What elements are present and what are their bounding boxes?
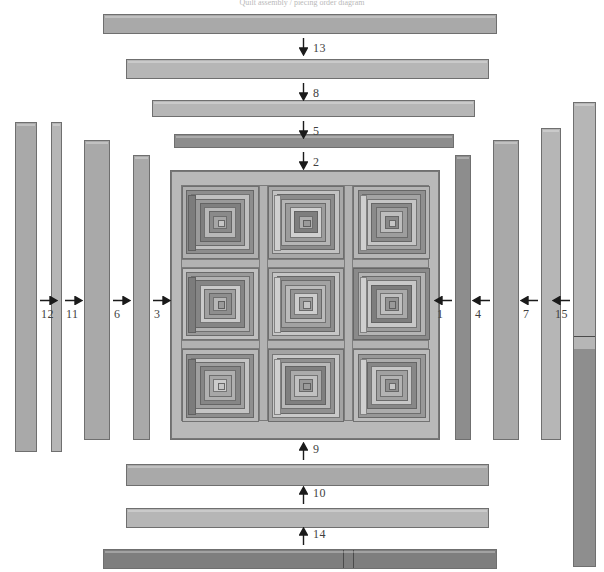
log-cabin-block xyxy=(182,186,259,259)
sashing-vertical xyxy=(259,186,268,420)
log-cabin-accent-log xyxy=(360,195,367,251)
border-strip-9 xyxy=(126,464,489,486)
strip-number-14: 14 xyxy=(313,528,326,540)
log-cabin-centre xyxy=(303,301,310,308)
strip-number-1: 1 xyxy=(437,308,444,320)
arrow-down-8 xyxy=(299,83,308,101)
log-cabin-centre xyxy=(389,220,396,227)
strip-number-10: 10 xyxy=(313,487,326,499)
log-cabin-block xyxy=(353,186,430,259)
log-cabin-block xyxy=(182,349,259,422)
strip-number-15: 15 xyxy=(555,308,568,320)
log-cabin-centre xyxy=(389,383,396,390)
sashing-horizontal xyxy=(182,340,428,349)
border-strip-4 xyxy=(493,140,519,440)
log-cabin-block xyxy=(268,268,345,341)
border-strip-5 xyxy=(152,100,475,117)
strip-number-3: 3 xyxy=(154,308,161,320)
log-cabin-accent-log xyxy=(274,195,281,251)
log-cabin-block xyxy=(353,268,430,341)
arrow-right-3 xyxy=(153,296,171,305)
log-cabin-accent-log xyxy=(360,277,367,333)
arrow-left-15 xyxy=(552,296,570,305)
arrow-down-2 xyxy=(299,152,308,170)
border-strip-13 xyxy=(103,14,497,34)
diagram-canvas: Quilt assembly / piecing order diagram 1… xyxy=(0,0,604,572)
log-cabin-accent-log xyxy=(360,359,367,415)
border-strip-14 xyxy=(103,549,497,569)
strip-number-4: 4 xyxy=(475,308,482,320)
log-cabin-accent-log xyxy=(274,359,281,415)
log-cabin-centre xyxy=(218,220,225,227)
sashing-horizontal xyxy=(182,259,428,268)
border-strip-15 xyxy=(573,102,596,567)
sashing-vertical xyxy=(344,186,353,420)
log-cabin-centre xyxy=(303,383,310,390)
strip-number-7: 7 xyxy=(523,308,530,320)
log-cabin-accent-log xyxy=(274,277,281,333)
border-strip-12 xyxy=(15,122,37,452)
log-cabin-block xyxy=(268,349,345,422)
log-cabin-accent-log xyxy=(188,359,195,415)
arrow-right-12 xyxy=(40,296,58,305)
border-strip-3 xyxy=(133,155,150,440)
arrow-left-7 xyxy=(520,296,538,305)
arrow-up-10 xyxy=(299,486,308,504)
arrow-left-4 xyxy=(472,296,490,305)
seam-line xyxy=(574,336,595,337)
seam-line xyxy=(343,550,344,568)
arrow-down-13 xyxy=(299,38,308,56)
quilt-centre xyxy=(170,170,440,440)
log-cabin-centre xyxy=(389,301,396,308)
log-cabin-centre xyxy=(218,383,225,390)
strip-number-13: 13 xyxy=(313,42,326,54)
border-strip-8 xyxy=(126,59,489,79)
log-cabin-block xyxy=(268,186,345,259)
log-cabin-block xyxy=(353,349,430,422)
strip-number-9: 9 xyxy=(313,443,320,455)
seam-line xyxy=(353,550,354,568)
border-strip-6 xyxy=(84,140,110,440)
border-strip-10 xyxy=(126,508,489,528)
arrow-right-11 xyxy=(65,296,83,305)
strip-15-lower-segment xyxy=(574,349,595,566)
strip-number-11: 11 xyxy=(66,308,79,320)
figure-caption: Quilt assembly / piecing order diagram xyxy=(0,0,604,7)
arrow-up-9 xyxy=(299,442,308,460)
strip-number-2: 2 xyxy=(313,156,320,168)
border-strip-7 xyxy=(541,128,561,440)
border-strip-11 xyxy=(51,122,62,452)
strip-number-12: 12 xyxy=(41,308,54,320)
log-cabin-accent-log xyxy=(188,277,195,333)
arrow-down-5 xyxy=(299,121,308,139)
arrow-left-1 xyxy=(434,296,452,305)
strip-number-8: 8 xyxy=(313,87,320,99)
log-cabin-accent-log xyxy=(188,195,195,251)
strip-number-6: 6 xyxy=(114,308,121,320)
log-cabin-centre xyxy=(218,301,225,308)
arrow-right-6 xyxy=(113,296,131,305)
border-strip-1 xyxy=(455,155,471,440)
quilt-block-field xyxy=(181,185,429,421)
log-cabin-block xyxy=(182,268,259,341)
log-cabin-centre xyxy=(303,220,310,227)
strip-number-5: 5 xyxy=(313,125,320,137)
arrow-up-14 xyxy=(299,527,308,545)
